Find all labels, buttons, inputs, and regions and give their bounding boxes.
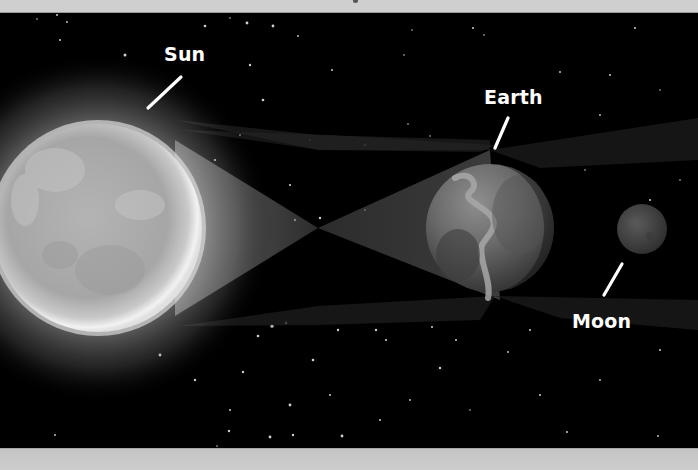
moon xyxy=(617,204,667,254)
bottom-frame-band xyxy=(0,448,698,470)
moon-label: Moon xyxy=(572,311,631,331)
sun-label: Sun xyxy=(164,44,205,64)
top-frame-band xyxy=(0,0,698,13)
earth-label: Earth xyxy=(484,87,543,107)
